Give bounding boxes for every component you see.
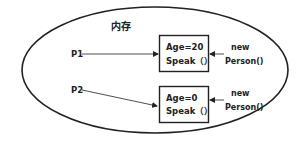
- constructor-2-line1: new: [231, 89, 250, 98]
- object-box-2-frame: [160, 87, 209, 123]
- reference-p2-label: P2: [71, 85, 83, 95]
- reference-p2-arrow: [82, 90, 157, 106]
- memory-diagram: 内存 Age=20 Speak（） Age=0 Speak（） P1 P2 ne…: [0, 0, 305, 143]
- object-box-2: Age=0 Speak（）: [160, 87, 214, 123]
- object-1-field: Age=20: [166, 42, 203, 52]
- reference-p1-label: P1: [71, 49, 83, 59]
- constructor-1-line1: new: [231, 43, 250, 52]
- memory-label: 内存: [111, 20, 131, 32]
- constructor-1-line2: Person(): [225, 57, 264, 66]
- object-1-method: Speak（）: [166, 56, 213, 66]
- object-box-1-frame: [160, 36, 209, 72]
- object-2-method: Speak（）: [166, 106, 213, 116]
- object-box-1: Age=20 Speak（）: [160, 36, 214, 72]
- constructor-2-line2: Person(): [225, 103, 264, 112]
- memory-ellipse: [22, 7, 288, 133]
- object-2-field: Age=0: [166, 93, 198, 103]
